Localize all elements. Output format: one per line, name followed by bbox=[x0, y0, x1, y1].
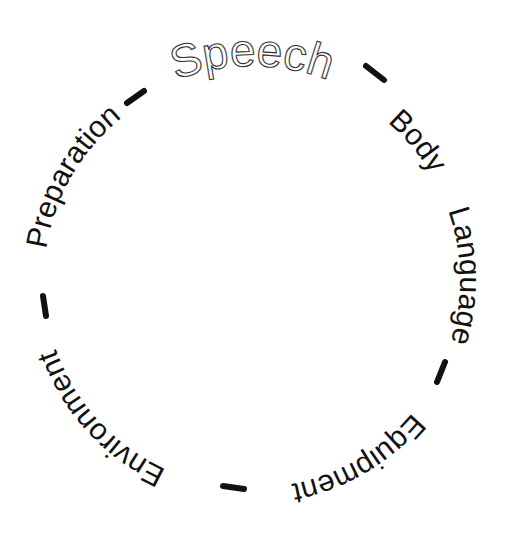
dash-top-left bbox=[127, 91, 144, 103]
label-language: Language bbox=[443, 203, 488, 349]
dash-bottom bbox=[223, 486, 244, 489]
dash-left bbox=[43, 296, 46, 316]
label-preparation: Preparation bbox=[20, 97, 126, 250]
dash-right bbox=[437, 362, 445, 382]
title-speech-wrap: Speech bbox=[0, 0, 256, 89]
label-equipment: Equipment bbox=[289, 409, 432, 511]
dash-top-right bbox=[366, 66, 384, 80]
label-body: Body bbox=[383, 102, 454, 177]
speech-cycle-diagram: Speech Speech Body Language Equipment En… bbox=[0, 0, 516, 540]
label-environment: Environment bbox=[30, 346, 169, 494]
